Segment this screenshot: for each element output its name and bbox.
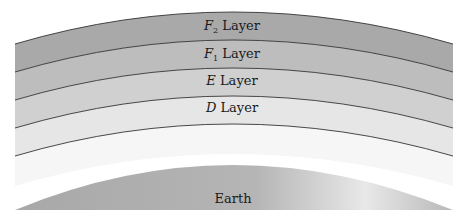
- d-layer-label: D Layer: [205, 100, 259, 115]
- f1-layer-label: F1 Layer: [203, 46, 261, 63]
- f2-layer-label: F2 Layer: [203, 18, 261, 35]
- ionosphere-diagram: F2 Layer F1 Layer E Layer D Layer Earth: [0, 0, 464, 224]
- e-layer-label: E Layer: [205, 73, 258, 88]
- earth-label: Earth: [214, 191, 252, 206]
